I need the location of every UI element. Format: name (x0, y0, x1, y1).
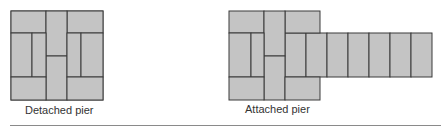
detached-pier-drawing (11, 11, 103, 100)
detached-pier-caption: Detached pier (25, 104, 94, 116)
brick (285, 11, 320, 33)
wall-brick (348, 33, 369, 77)
wall-brick (327, 33, 348, 77)
brick (229, 11, 264, 33)
attached-pier-caption: Attached pier (245, 103, 310, 115)
attached-pier-drawing (229, 11, 432, 100)
wall-brick (369, 33, 390, 77)
brick (229, 77, 264, 100)
wall-brick (285, 33, 306, 77)
brick (229, 33, 251, 77)
wall-brick (390, 33, 411, 77)
brick (32, 33, 46, 77)
brick (46, 11, 67, 56)
brick (67, 33, 81, 77)
divider-line (10, 125, 441, 126)
wall-brick (411, 33, 432, 77)
brick (46, 56, 67, 100)
wall-brick (306, 33, 327, 77)
brick (11, 11, 46, 33)
brick (264, 11, 285, 56)
brick (11, 77, 46, 100)
brick (67, 77, 103, 100)
brick (264, 56, 285, 100)
brick (11, 33, 32, 77)
brick (251, 33, 264, 77)
brick (67, 11, 103, 33)
brick (285, 77, 320, 100)
brick (81, 33, 103, 77)
